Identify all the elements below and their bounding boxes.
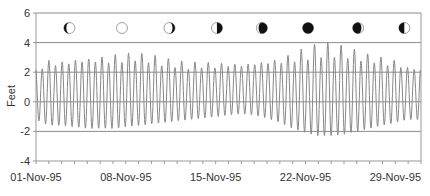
moon-icon-waxing-crescent (353, 23, 364, 34)
y-tick-label: 0 (24, 96, 30, 108)
y-tick-label: 2 (24, 66, 30, 78)
moon-icon-full-moon (116, 23, 127, 34)
moon-icon-waning-right-dark-crescent (164, 23, 175, 34)
y-axis-title: Feet (5, 85, 17, 107)
moon-icon-first-quarter (399, 23, 410, 34)
x-tick-label: 01-Nov-95 (10, 171, 61, 183)
moon-icon-new-moon (303, 23, 314, 34)
x-tick-label: 08-Nov-95 (100, 171, 151, 183)
moon-phase-icons (64, 23, 410, 34)
moon-icon-waning-crescent (256, 23, 267, 34)
y-tick-label: 4 (24, 37, 30, 49)
x-tick-label: 29-Nov-95 (370, 171, 421, 183)
y-tick-label: -2 (20, 125, 30, 137)
moon-icon-last-quarter (211, 23, 222, 34)
tide-series-line (36, 43, 420, 136)
y-tick-label: -4 (20, 155, 30, 167)
x-tick-label: 15-Nov-95 (190, 171, 241, 183)
x-axis-ticks: 01-Nov-9508-Nov-9515-Nov-9522-Nov-9529-N… (10, 161, 421, 183)
y-tick-label: 6 (24, 7, 30, 19)
y-axis-ticks: -4-20246 (20, 7, 36, 167)
x-tick-label: 22-Nov-95 (280, 171, 331, 183)
moon-icon-waning-left-dark-crescent (64, 23, 75, 34)
tide-chart: -4-20246 01-Nov-9508-Nov-9515-Nov-9522-N… (0, 0, 430, 196)
